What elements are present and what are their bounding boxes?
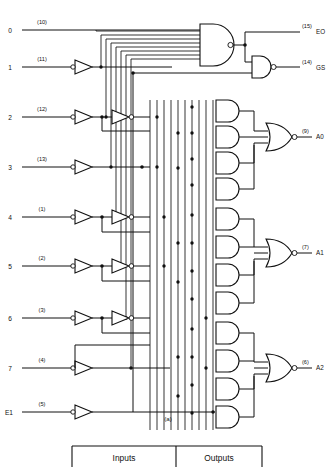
input-pin-4: (1) xyxy=(39,206,46,212)
and-array-a0 xyxy=(155,100,312,200)
output-label-a0: A0 xyxy=(316,133,324,140)
table-header-outputs: Outputs xyxy=(204,453,233,463)
input-label-e1: E1 xyxy=(5,409,13,416)
buffer-input-7 xyxy=(71,345,170,375)
output-pin-eo: (15) xyxy=(302,23,312,29)
input-label-2: 2 xyxy=(8,114,12,121)
output-label-a1: A1 xyxy=(316,249,324,256)
buffer-input-3 xyxy=(71,160,150,174)
output-pin-a2: (6) xyxy=(302,359,309,365)
buffer-input-4 xyxy=(71,210,150,232)
nand-gate-eo xyxy=(200,24,300,66)
circuit-schematic: 0 (10) 1 (11) 2 (12) 3 (13) 4 (1) 5 (2) … xyxy=(0,0,330,467)
input-pin-1: (11) xyxy=(37,56,47,62)
input-pin-2: (12) xyxy=(37,106,47,112)
input-pin-6: (3) xyxy=(39,307,46,313)
input-pin-5: (2) xyxy=(39,255,46,261)
output-label-eo: EO xyxy=(316,28,325,35)
input-label-0: 0 xyxy=(8,27,12,34)
input-label-5: 5 xyxy=(8,263,12,270)
table-header-inputs: Inputs xyxy=(113,453,136,463)
input-label-7: 7 xyxy=(8,365,12,372)
input-label-6: 6 xyxy=(8,315,12,322)
truth-table: Inputs Outputs xyxy=(72,446,262,467)
input-label-4: 4 xyxy=(8,214,12,221)
input-pin-e1: (5) xyxy=(39,401,46,407)
input-pin-0: (10) xyxy=(37,19,47,25)
input-label-1: 1 xyxy=(8,64,12,71)
output-pin-a0: (9) xyxy=(302,128,309,134)
internal-routing xyxy=(150,100,213,430)
buffer-input-2 xyxy=(71,110,150,131)
and-array-a2 xyxy=(176,316,312,428)
output-label-gs: GS xyxy=(316,64,325,71)
input-label-3: 3 xyxy=(8,164,12,171)
output-pin-a1: (7) xyxy=(302,244,309,250)
input-pin-3: (13) xyxy=(37,156,47,162)
figure-caption: (a) xyxy=(164,415,172,422)
input-pin-7: (4) xyxy=(39,357,46,363)
output-pin-gs: (14) xyxy=(302,59,312,65)
output-label-a2: A2 xyxy=(316,364,324,371)
buffer-input-6 xyxy=(71,311,150,333)
buffer-input-5 xyxy=(71,259,150,281)
output-labels: (15) EO (14) GS (9) A0 (7) A1 (6) A2 xyxy=(302,23,325,371)
